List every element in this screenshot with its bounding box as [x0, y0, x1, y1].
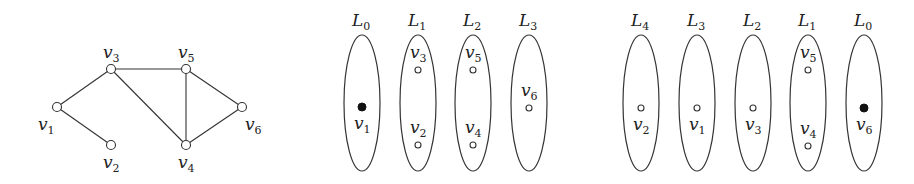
right-node-label-v6: v6 — [856, 114, 873, 137]
edge-v1-v3 — [57, 69, 111, 107]
left-node-label-v3: v3 — [410, 42, 427, 65]
node-v6 — [238, 103, 247, 112]
node-v3 — [107, 65, 116, 74]
left-node-label-v6: v6 — [521, 80, 538, 103]
left-node-label-v2: v2 — [410, 117, 427, 140]
layering-from-v1-panel: L0v1L1v3v2L2v5v4L3v6 — [344, 10, 547, 171]
left-node-v4 — [470, 142, 476, 148]
edge-v4-v6 — [186, 107, 242, 145]
node-v1 — [53, 103, 62, 112]
edge-v5-v6 — [186, 69, 242, 107]
node-label-v6: v6 — [245, 114, 262, 137]
right-node-label-v3: v3 — [745, 114, 762, 137]
layering-from-v6-panel: L4v2L3v1L2v3L1v5v4L0v6 — [623, 10, 882, 171]
right-node-v2 — [638, 105, 644, 111]
right-layer-L0 — [846, 35, 882, 171]
node-v2 — [107, 141, 116, 150]
right-layer-L2 — [735, 35, 771, 171]
left-node-label-v5: v5 — [465, 42, 482, 65]
left-node-v5 — [470, 67, 476, 73]
right-layer-label-L1: L1 — [797, 10, 816, 33]
left-node-v3 — [415, 67, 421, 73]
left-layer-label-L0: L0 — [351, 10, 370, 33]
right-node-label-v2: v2 — [633, 114, 650, 137]
edge-v1-v2 — [57, 107, 111, 145]
left-layer-label-L3: L3 — [518, 10, 537, 33]
left-node-v2 — [415, 142, 421, 148]
node-label-v1: v1 — [38, 114, 55, 137]
right-layer-label-L2: L2 — [742, 10, 761, 33]
right-node-label-v1: v1 — [689, 114, 706, 137]
right-node-label-v5: v5 — [800, 42, 817, 65]
node-label-v4: v4 — [178, 152, 195, 175]
node-v4 — [182, 141, 191, 150]
right-layer-label-L4: L4 — [630, 10, 649, 33]
right-layer-L3 — [679, 35, 715, 171]
right-node-v3 — [750, 105, 756, 111]
root-node-v1 — [358, 103, 366, 111]
left-node-v6 — [526, 105, 532, 111]
left-node-label-v4: v4 — [465, 117, 482, 140]
right-layer-label-L3: L3 — [686, 10, 705, 33]
right-layer-label-L0: L0 — [853, 10, 872, 33]
node-v5 — [182, 65, 191, 74]
root-node-v6 — [860, 104, 868, 112]
bfs-layering-diagram: v1v2v3v4v5v6 L0v1L1v3v2L2v5v4L3v6 L4v2L3… — [0, 0, 914, 184]
right-node-v4 — [805, 143, 811, 149]
right-node-label-v4: v4 — [800, 118, 817, 141]
node-label-v3: v3 — [103, 42, 120, 65]
right-layer-L4 — [623, 35, 659, 171]
left-layer-L3 — [511, 35, 547, 171]
right-node-v1 — [694, 105, 700, 111]
left-layer-label-L1: L1 — [407, 10, 426, 33]
node-label-v5: v5 — [178, 42, 195, 65]
right-node-v5 — [805, 67, 811, 73]
edge-v3-v4 — [111, 69, 186, 145]
left-node-label-v1: v1 — [354, 113, 371, 136]
node-label-v2: v2 — [103, 152, 120, 175]
left-layer-label-L2: L2 — [462, 10, 481, 33]
graph-panel: v1v2v3v4v5v6 — [38, 42, 262, 175]
